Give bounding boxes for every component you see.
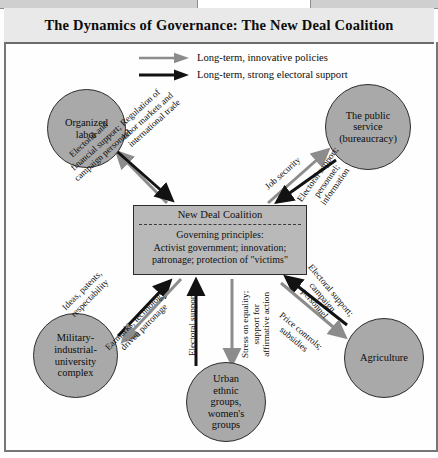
center-principles-label: Governing principles:: [176, 229, 263, 240]
node-military-complex-line4: complex: [58, 367, 94, 378]
page-title: The Dynamics of Governance: The New Deal…: [44, 17, 393, 34]
edge-label-urban-in-line1: Electoral support: [187, 294, 198, 356]
legend-label-electoral-support: Long-term, strong electoral support: [197, 69, 348, 80]
figure-container: The Dynamics of Governance: The New Deal…: [0, 0, 438, 458]
node-urban-ethnic-groups-line3: groups,: [211, 396, 242, 407]
gray-arrow-icon: [138, 52, 190, 64]
center-heading: New Deal Coalition: [134, 206, 306, 224]
node-urban-ethnic-groups-line1: Urban: [213, 373, 239, 384]
node-public-service-line2: service: [353, 121, 382, 132]
edge-label-urban-in: Electoral support: [187, 294, 198, 356]
legend-item-innovative-policies: Long-term, innovative policies: [138, 50, 368, 65]
node-urban-ethnic-groups-line2: ethnic: [213, 385, 238, 396]
node-agriculture: Agriculture: [344, 318, 424, 398]
figure-title-band: The Dynamics of Governance: The New Deal…: [4, 8, 434, 44]
legend-item-electoral-support: Long-term, strong electoral support: [138, 67, 368, 82]
node-public-service-line1: The public: [346, 110, 391, 121]
top-cutoff-tab: [197, 0, 311, 8]
node-military-complex: Military- industrial- university complex: [33, 313, 118, 398]
center-node-new-deal-coalition: New Deal Coalition Governing principles:…: [133, 205, 307, 275]
center-principles: Governing principles: Activist governmen…: [149, 225, 291, 267]
node-military-complex-line2: industrial-: [54, 344, 97, 355]
node-agriculture-line1: Agriculture: [360, 352, 408, 363]
black-arrow-icon: [138, 69, 190, 81]
edge-label-urban-out-line2: support for: [251, 291, 262, 358]
legend-label-innovative-policies: Long-term, innovative policies: [197, 52, 328, 63]
center-principles-line1: Activist government; innovation;: [154, 242, 287, 253]
edge-label-urban-out: Stress on equality; support for affirmat…: [240, 291, 272, 358]
node-military-complex-line3: university: [55, 356, 97, 367]
node-urban-ethnic-groups: Urban ethnic groups, women's groups: [186, 362, 266, 442]
node-military-complex-line1: Military-: [57, 332, 95, 343]
center-principles-line2: patronage; protection of "victims": [152, 254, 288, 265]
node-urban-ethnic-groups-line4: women's: [208, 408, 245, 419]
edge-label-urban-out-line1: Stress on equality;: [240, 291, 251, 358]
node-public-service-line3: (bureaucracy): [339, 133, 397, 144]
legend: Long-term, innovative policies Long-term…: [138, 50, 368, 84]
node-urban-ethnic-groups-line5: groups: [212, 419, 240, 430]
